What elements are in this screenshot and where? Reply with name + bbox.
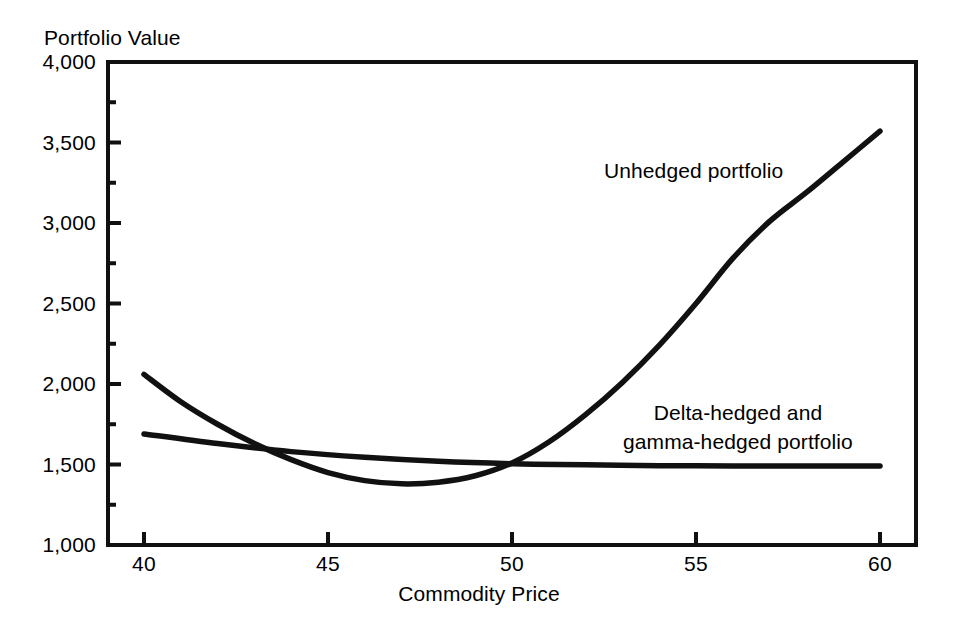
series-curve-unhedged: [144, 131, 880, 484]
axis-ticks: [108, 102, 880, 545]
chart-figure: Portfolio Value 4,000 3,500 3,000 2,500 …: [0, 0, 958, 637]
series-curve-hedged: [144, 434, 880, 466]
axis-frame: [108, 62, 916, 545]
plot-area: [0, 0, 958, 637]
